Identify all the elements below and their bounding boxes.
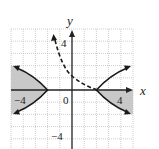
tick-label-x-neg4: −4 — [14, 95, 26, 106]
tick-label-y-neg4: −4 — [51, 131, 63, 142]
graph-canvas — [0, 0, 159, 149]
tick-label-x-4: 4 — [117, 95, 123, 106]
arrow-right-upper-icon — [124, 66, 131, 72]
y-axis-label: y — [67, 14, 73, 27]
y-axis-arrow-icon — [69, 30, 75, 37]
tick-label-y-4: 4 — [61, 38, 67, 49]
dashed-curve-arrow-icon — [51, 34, 57, 41]
x-axis-label: x — [140, 84, 146, 97]
tick-label-x-0: 0 — [63, 95, 69, 106]
